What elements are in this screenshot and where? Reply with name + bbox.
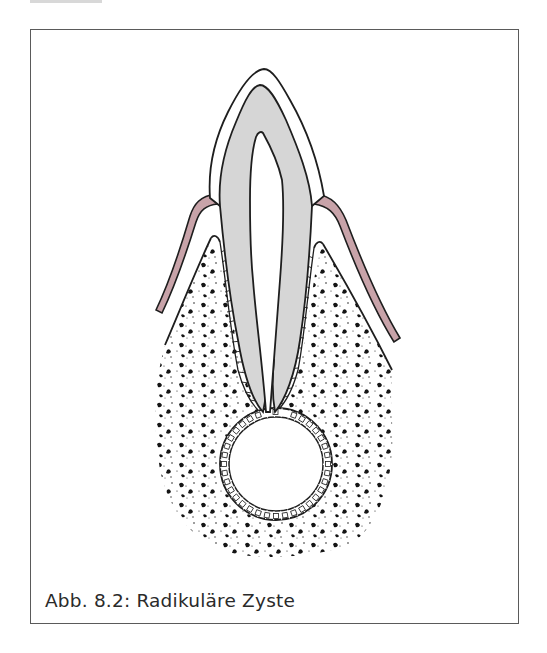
cyst-lumen (229, 417, 323, 511)
radicular-cyst-illustration (0, 0, 547, 653)
figure-caption: Abb. 8.2: Radikuläre Zyste (45, 590, 295, 611)
cyst (220, 408, 332, 520)
